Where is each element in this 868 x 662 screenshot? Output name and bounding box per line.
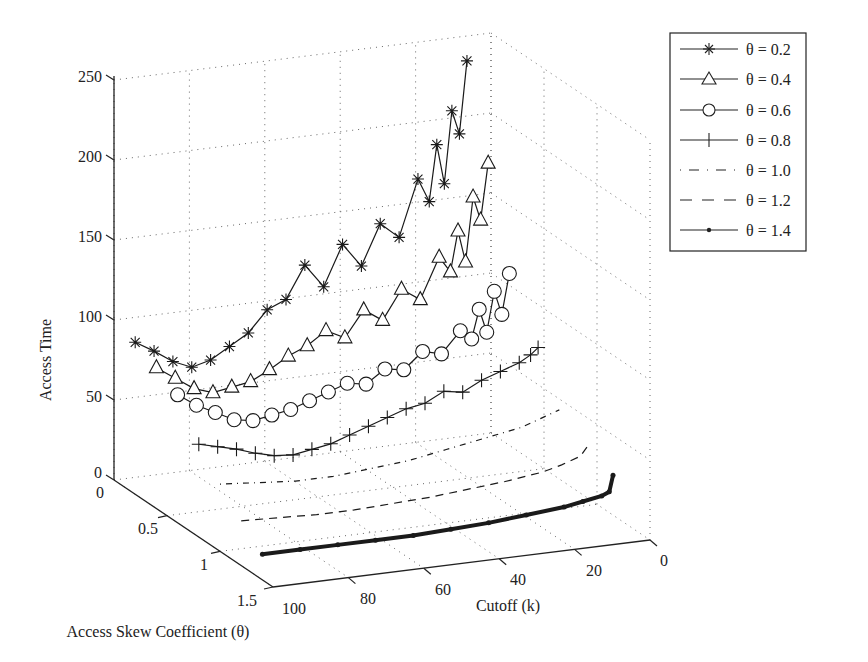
plus-marker-icon — [493, 364, 507, 378]
dot-marker-icon — [580, 499, 585, 504]
asterisk-marker-icon — [167, 356, 179, 368]
plus-marker-icon — [211, 440, 225, 454]
data-series — [129, 55, 615, 557]
theta-tick-0: 0 — [96, 484, 104, 501]
triangle-marker-icon — [300, 338, 314, 351]
triangle-marker-icon — [432, 249, 446, 262]
asterisk-marker-icon — [129, 336, 141, 348]
plus-marker-icon — [418, 396, 432, 410]
plus-marker-icon — [399, 402, 413, 416]
triangle-marker-icon — [481, 155, 495, 168]
dot-marker-icon — [448, 527, 453, 532]
asterisk-marker-icon — [337, 238, 349, 250]
dot-marker-icon — [411, 533, 416, 538]
circle-marker-icon — [487, 284, 501, 298]
plus-marker-icon — [343, 428, 357, 442]
z-axis-ticks: 250 200 150 100 50 0 — [78, 68, 102, 481]
asterisk-marker-icon — [205, 354, 217, 366]
series-theta-0.2 — [129, 55, 473, 373]
dot-marker-icon — [562, 505, 567, 510]
dot-marker-icon — [260, 552, 265, 557]
k-tick-40: 40 — [510, 571, 526, 588]
asterisk-marker-icon — [393, 231, 405, 243]
z-tick-250: 250 — [78, 68, 102, 85]
triangle-marker-icon — [168, 370, 182, 383]
plus-marker-icon — [361, 419, 375, 433]
legend-label: θ = 0.4 — [746, 71, 791, 88]
legend-label: θ = 0.6 — [746, 102, 791, 119]
z-tick-150: 150 — [78, 228, 102, 245]
circle-marker-icon — [703, 104, 715, 116]
circle-marker-icon — [435, 347, 449, 361]
circle-marker-icon — [265, 408, 279, 422]
triangle-marker-icon — [357, 302, 371, 315]
asterisk-marker-icon — [461, 55, 473, 67]
z-tick-0: 0 — [94, 464, 102, 481]
triangle-marker-icon — [187, 381, 201, 394]
triangle-marker-icon — [376, 312, 390, 325]
dot-marker-icon — [524, 512, 529, 517]
legend-label: θ = 0.2 — [746, 41, 791, 58]
theta-tick-1: 1 — [200, 556, 208, 573]
x-axis-title: Cutoff (k) — [476, 597, 540, 615]
z-tick-50: 50 — [86, 388, 102, 405]
triangle-marker-icon — [319, 323, 333, 336]
asterisk-marker-icon — [374, 218, 386, 230]
circle-marker-icon — [495, 307, 509, 321]
dot-marker-icon — [373, 538, 378, 543]
circle-marker-icon — [502, 266, 516, 280]
plus-marker-icon — [380, 411, 394, 425]
series-theta-0.6 — [171, 266, 517, 427]
axes — [106, 75, 657, 589]
asterisk-marker-icon — [446, 105, 458, 117]
dot-marker-icon — [486, 520, 491, 525]
circle-marker-icon — [480, 325, 494, 339]
theta-tick-0.5: 0.5 — [138, 520, 158, 537]
triangle-marker-icon — [466, 189, 480, 202]
circle-marker-icon — [378, 362, 392, 376]
circle-marker-icon — [208, 406, 222, 420]
circle-marker-icon — [321, 385, 335, 399]
dot-marker-icon — [607, 489, 612, 494]
circle-marker-icon — [465, 332, 479, 346]
z-tick-100: 100 — [78, 308, 102, 325]
plus-marker-icon — [512, 356, 526, 370]
series-theta-0.4 — [149, 155, 495, 398]
z-tick-200: 200 — [78, 148, 102, 165]
k-tick-20: 20 — [586, 562, 602, 579]
circle-marker-icon — [246, 414, 260, 428]
theta-axis-ticks: 0 0.5 1 1.5 — [96, 484, 257, 609]
plus-marker-icon — [324, 437, 338, 451]
circle-marker-icon — [416, 344, 430, 358]
y-axis-title: Access Skew Coefficient (θ) — [67, 623, 250, 641]
triangle-marker-icon — [474, 212, 488, 225]
asterisk-marker-icon — [261, 304, 273, 316]
series-theta-0.8 — [192, 341, 545, 463]
plus-marker-icon — [437, 384, 451, 398]
plus-marker-icon — [475, 373, 489, 387]
dot-marker-icon — [599, 493, 604, 498]
dot-marker-icon — [707, 228, 711, 232]
k-tick-80: 80 — [360, 590, 376, 607]
triangle-marker-icon — [281, 348, 295, 361]
legend-label: θ = 1.4 — [746, 222, 791, 239]
plus-marker-icon — [286, 448, 300, 462]
circle-marker-icon — [171, 388, 185, 402]
circle-marker-icon — [227, 413, 241, 427]
asterisk-marker-icon — [299, 259, 311, 271]
legend-label: θ = 0.8 — [746, 132, 791, 149]
asterisk-marker-icon — [423, 196, 435, 208]
circle-marker-icon — [340, 376, 354, 390]
legend-label: θ = 1.2 — [746, 192, 791, 209]
asterisk-marker-icon — [438, 178, 450, 190]
legend: θ = 0.2 θ = 0.4 θ = 0.6 θ = 0.8 θ = 1.0 … — [670, 33, 806, 251]
plus-marker-icon — [192, 437, 206, 451]
circle-marker-icon — [303, 394, 317, 408]
circle-marker-icon — [397, 363, 411, 377]
triangle-marker-icon — [244, 374, 258, 387]
circle-marker-icon — [284, 403, 298, 417]
plus-marker-icon — [230, 442, 244, 456]
asterisk-marker-icon — [355, 260, 367, 272]
triangle-marker-icon — [451, 223, 465, 236]
dot-marker-icon — [335, 542, 340, 547]
